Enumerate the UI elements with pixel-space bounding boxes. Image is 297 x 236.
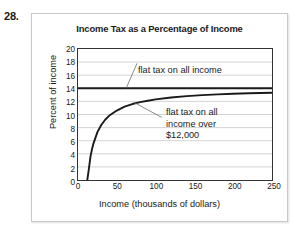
figure-box: Income Tax as a Percentage of Income Per… <box>31 13 288 222</box>
x-tick-label: 150 <box>189 182 203 191</box>
series-group <box>78 88 272 180</box>
x-tick-label: 200 <box>228 182 242 191</box>
y-tick-label: 2 <box>70 164 75 173</box>
y-tick-label: 8 <box>70 124 75 133</box>
problem-number: 28. <box>4 10 19 22</box>
x-tick-label: 100 <box>150 182 164 191</box>
x-tick-label: 50 <box>113 182 122 191</box>
leader-lines-group <box>126 63 162 117</box>
x-axis-title: Income (thousands of dollars) <box>32 199 287 209</box>
gridlines-group <box>78 62 272 167</box>
x-tick-label: 0 <box>76 182 81 191</box>
plot-svg <box>78 49 272 180</box>
y-tick-label: 12 <box>66 98 75 107</box>
x-tick-label: 250 <box>267 182 281 191</box>
y-tick-label: 18 <box>66 58 75 67</box>
y-tick-label: 0 <box>70 178 75 187</box>
annotation-leader-line-1 <box>134 102 162 117</box>
plot-area: 20181614121086420 050100150200250 flat t… <box>77 48 273 181</box>
y-tick-label: 20 <box>66 45 75 54</box>
y-axis-title: Percent of income <box>48 37 58 147</box>
y-tick-label: 14 <box>66 84 75 93</box>
y-tick-label: 4 <box>70 151 75 160</box>
annotation-leader-line-0 <box>126 63 137 88</box>
chart-title: Income Tax as a Percentage of Income <box>32 23 287 34</box>
y-tick-label: 6 <box>70 138 75 147</box>
y-tick-label: 10 <box>66 111 75 120</box>
y-tick-label: 16 <box>66 71 75 80</box>
